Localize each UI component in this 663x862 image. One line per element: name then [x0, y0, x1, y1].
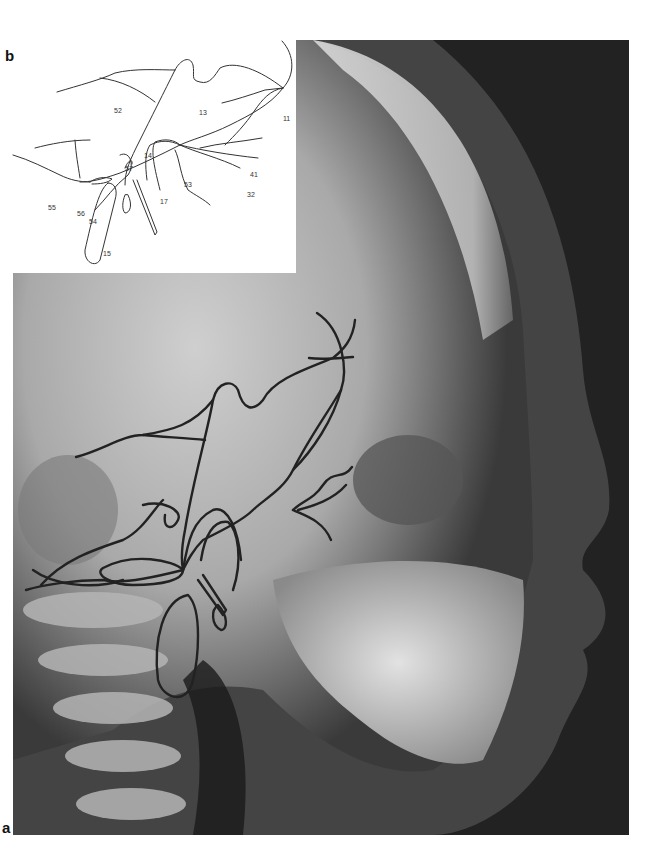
panel-label-a: a: [1, 820, 11, 835]
label-55: 55: [48, 204, 56, 211]
tracing-inset-panel-b: 52 13 11 14 57 41 53 32 55 56 54 17 15 5…: [0, 40, 296, 273]
label-41: 41: [250, 171, 258, 178]
panel-label-b: b: [5, 48, 14, 63]
label-52: 52: [114, 107, 122, 114]
tracing-labels: 52 13 11 14 57 41 53 32 55 56 54 17 15 5…: [48, 107, 290, 273]
label-17: 17: [160, 198, 168, 205]
cranial-tracing-diagram: 52 13 11 14 57 41 53 32 55 56 54 17 15 5…: [0, 40, 296, 273]
label-56: 56: [77, 210, 85, 217]
label-11: 11: [283, 115, 290, 122]
label-57: 57: [125, 165, 133, 172]
label-32: 32: [247, 191, 255, 198]
label-13: 13: [199, 109, 207, 116]
label-54: 54: [89, 218, 97, 225]
label-53: 53: [184, 181, 192, 188]
label-58: 58: [156, 272, 164, 273]
label-15: 15: [103, 250, 111, 257]
label-14: 14: [144, 152, 152, 159]
